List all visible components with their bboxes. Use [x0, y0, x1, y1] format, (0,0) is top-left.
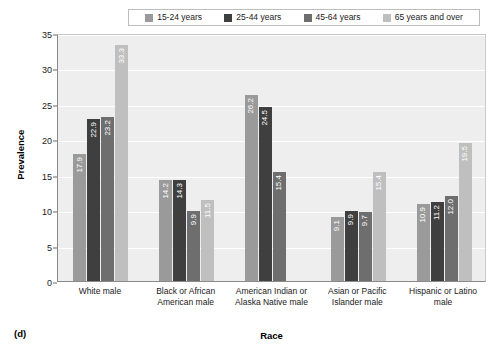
- bar-value-label: 12.0: [447, 199, 455, 215]
- bar[interactable]: 9.9: [187, 211, 200, 281]
- bar[interactable]: 10.9: [417, 204, 430, 281]
- bar[interactable]: 33.3: [115, 45, 128, 281]
- y-tick-label-2: 10: [42, 208, 52, 217]
- y-tick-label-7: 35: [42, 31, 52, 40]
- bar-group-0: 17.922.923.233.3: [58, 35, 144, 281]
- bar-group-3: 9.19.99.715.4: [315, 35, 401, 281]
- x-axis-label-1: Black or African American male: [143, 286, 229, 307]
- legend-item-1[interactable]: 25-44 years: [224, 13, 281, 22]
- y-tick-label-0: 0: [47, 279, 52, 288]
- y-axis: Prevalence 05101520253035: [0, 34, 57, 284]
- bar-value-label: 9.9: [347, 214, 355, 225]
- y-tick-mark: [53, 283, 57, 284]
- legend-swatch-icon: [224, 14, 232, 22]
- bar[interactable]: 12.0: [445, 196, 458, 281]
- bar-value-label: 22.9: [90, 122, 98, 138]
- bar[interactable]: 14.3: [173, 180, 186, 281]
- y-tick-label-6: 30: [42, 66, 52, 75]
- legend-item-label: 15-24 years: [157, 13, 202, 22]
- bar-value-label: 11.5: [204, 203, 212, 218]
- y-tick-label-3: 15: [42, 172, 52, 181]
- bar[interactable]: 9.7: [359, 212, 372, 281]
- bar[interactable]: 26.2: [245, 95, 258, 281]
- plot-area: 17.922.923.233.314.214.39.911.526.224.51…: [57, 34, 486, 282]
- bar-value-label: 15.4: [375, 175, 383, 191]
- bar-value-label: 17.9: [76, 157, 84, 173]
- legend-item-3[interactable]: 65 years and over: [383, 13, 463, 22]
- legend-swatch-icon: [145, 14, 153, 22]
- bar-value-label: 26.2: [247, 98, 255, 114]
- bar[interactable]: 19.5: [459, 143, 472, 281]
- bar-value-label: 33.3: [118, 48, 126, 64]
- bar-group-1: 14.214.39.911.5: [144, 35, 230, 281]
- panel-label: (d): [14, 328, 26, 339]
- chart-legend: 15-24 years25-44 years45-64 years65 year…: [128, 9, 480, 26]
- bar[interactable]: 17.9: [73, 154, 86, 281]
- y-tick-label-4: 20: [42, 137, 52, 146]
- bar-group-4: 10.911.212.019.5: [401, 35, 487, 281]
- bar-value-label: 23.2: [104, 120, 112, 136]
- plot-inner: 17.922.923.233.314.214.39.911.526.224.51…: [58, 35, 485, 281]
- bar-value-label: 9.1: [333, 220, 341, 231]
- bar[interactable]: 9.1: [331, 217, 344, 281]
- bar[interactable]: 11.2: [431, 202, 444, 281]
- bar-group-2: 26.224.515.4: [230, 35, 316, 281]
- bar[interactable]: 22.9: [87, 119, 100, 281]
- legend-item-label: 45-64 years: [316, 13, 361, 22]
- bar-value-label: 9.9: [190, 214, 198, 225]
- bar-value-label: 14.2: [162, 183, 170, 199]
- y-tick-label-5: 25: [42, 101, 52, 110]
- legend-swatch-icon: [383, 14, 391, 22]
- legend-item-2[interactable]: 45-64 years: [304, 13, 361, 22]
- legend-swatch-icon: [304, 14, 312, 22]
- x-axis-label-0: White male: [57, 286, 143, 297]
- bar-value-label: 24.5: [261, 110, 269, 126]
- x-axis-label-4: Hispanic or Latino male: [400, 286, 486, 307]
- bar-value-label: 11.2: [433, 205, 441, 220]
- x-axis-label-2: American Indian or Alaska Native male: [229, 286, 315, 307]
- legend-item-0[interactable]: 15-24 years: [145, 13, 202, 22]
- y-tick-label-1: 5: [47, 243, 52, 252]
- legend-item-label: 65 years and over: [395, 13, 463, 22]
- bar-value-label: 15.4: [275, 175, 283, 191]
- bar[interactable]: 24.5: [259, 107, 272, 281]
- bar-value-label: 19.5: [461, 146, 469, 162]
- legend-item-label: 25-44 years: [236, 13, 281, 22]
- chart-figure: 15-24 years25-44 years45-64 years65 year…: [0, 0, 501, 350]
- bar[interactable]: 9.9: [345, 211, 358, 281]
- bar[interactable]: 15.4: [373, 172, 386, 281]
- bar[interactable]: 14.2: [159, 180, 172, 281]
- bar-value-label: 14.3: [176, 183, 184, 199]
- x-axis-label-3: Asian or Pacific Islander male: [314, 286, 400, 307]
- x-axis-labels: White maleBlack or African American male…: [57, 286, 486, 332]
- bar[interactable]: 11.5: [201, 200, 214, 281]
- y-axis-title: Prevalence: [16, 110, 26, 200]
- x-axis-title: Race: [57, 330, 486, 341]
- bar-value-label: 10.9: [419, 207, 427, 223]
- bar[interactable]: 15.4: [273, 172, 286, 281]
- bar-value-label: 9.7: [361, 215, 369, 226]
- bar[interactable]: 23.2: [101, 117, 114, 281]
